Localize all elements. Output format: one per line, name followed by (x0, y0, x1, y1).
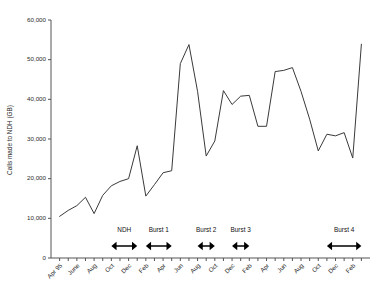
x-tick-label: Apr (258, 262, 270, 274)
x-tick-label: Oct (103, 262, 115, 274)
x-tick-label: Dec (120, 262, 133, 275)
y-tick-label: 60,000 (27, 16, 46, 23)
annotation-arrow-head-right (132, 242, 137, 250)
annotation-arrow-head-right (356, 242, 361, 250)
annotation-arrow-head-left (198, 242, 203, 250)
annotation-label: Burst 1 (149, 226, 170, 233)
annotation-arrow-head-right (167, 242, 172, 250)
x-tick-label: Feb (344, 261, 357, 274)
y-tick-label: 40,000 (27, 95, 46, 102)
x-tick-label: Oct (310, 262, 322, 274)
data-series-line (60, 44, 362, 216)
y-tick-label: 30,000 (27, 135, 46, 142)
x-tick-label: Aug (85, 261, 98, 274)
x-axis-labels: Apr 95JuneAugOctDecFebAprJunAugOctDecFeb… (45, 261, 356, 279)
x-tick-label: Dec (223, 262, 236, 275)
annotation-arrow-head-left (111, 242, 116, 250)
y-tick-label: 10,000 (27, 214, 46, 221)
annotation-arrow-head-left (232, 242, 237, 250)
annotation-ndh: NDH (111, 226, 137, 250)
x-tick-label: Jun (172, 261, 184, 273)
annotation-burst-1: Burst 1 (146, 226, 172, 250)
annotation-label: Burst 4 (334, 226, 355, 233)
y-tick-label: 50,000 (27, 55, 46, 62)
line-chart: Calls made to NDH (GB) 010,00020,00030,0… (0, 0, 374, 301)
y-tick-label: 20,000 (27, 174, 46, 181)
annotation-burst-3: Burst 3 (231, 226, 252, 250)
y-axis-title-label: Calls made to NDH (GB) (6, 105, 14, 175)
annotation-arrow-head-left (327, 242, 332, 250)
x-tick-label: Aug (189, 261, 202, 274)
x-tick-label: Feb (137, 261, 150, 274)
x-tick-label: Feb (241, 261, 254, 274)
annotation-label: NDH (117, 226, 131, 233)
annotation-arrow-head-right (244, 242, 249, 250)
x-tick-label: June (66, 261, 81, 276)
annotation-arrow-head-right (210, 242, 215, 250)
annotation-arrow-head-left (146, 242, 151, 250)
annotation-group: NDHBurst 1Burst 2Burst 3Burst 4 (111, 226, 361, 250)
x-tick-label: Dec (326, 262, 339, 275)
y-axis-ticks: 010,00020,00030,00040,00050,00060,000 (27, 16, 51, 261)
x-tick-label: Apr 95 (45, 261, 63, 279)
y-tick-label: 0 (43, 254, 47, 261)
x-tick-label: Apr (155, 262, 167, 274)
x-tick-label: Jun (275, 261, 287, 273)
x-tick-label: Oct (207, 262, 219, 274)
y-axis-title: Calls made to NDH (GB) (6, 105, 14, 175)
annotation-label: Burst 3 (231, 226, 252, 233)
annotation-burst-4: Burst 4 (327, 226, 361, 250)
x-tick-label: Aug (292, 261, 305, 274)
annotation-label: Burst 2 (196, 226, 217, 233)
annotation-burst-2: Burst 2 (196, 226, 217, 250)
chart-figure: Calls made to NDH (GB) 010,00020,00030,0… (0, 0, 374, 301)
